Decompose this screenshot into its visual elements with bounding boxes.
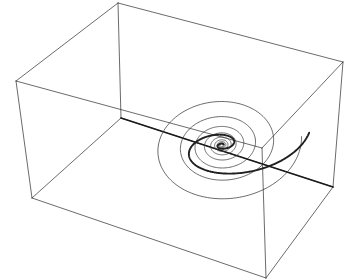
box-edge-bottom-back-left (32, 118, 121, 198)
box-edge-vertical-right (333, 62, 343, 187)
box-edge-vertical-back (118, 3, 121, 118)
bounding-box-wireframe (16, 3, 343, 278)
box-edge-bottom-left-front (32, 198, 266, 278)
plot-canvas (0, 0, 344, 280)
box-edge-top-back-right (118, 3, 343, 62)
projected-spiral-curve (158, 102, 302, 199)
diagonal-axis-line (121, 118, 333, 187)
box-edge-top-left-front (16, 81, 262, 148)
box-edge-bottom-front-right (266, 187, 333, 278)
box-edge-top-right-front (262, 62, 343, 148)
figure-container (0, 0, 344, 280)
box-edge-vertical-left (16, 81, 32, 198)
box-edge-top-back-left (16, 3, 118, 81)
